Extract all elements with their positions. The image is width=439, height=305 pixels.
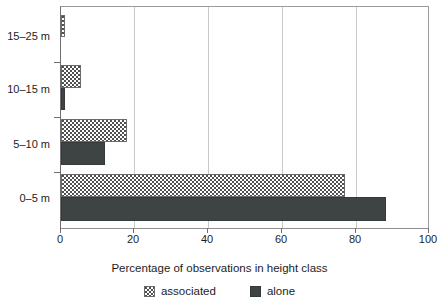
gridline-80 (356, 7, 357, 228)
y-tick-2 (54, 117, 60, 118)
bar-associated-5-10m (61, 119, 127, 142)
bar-associated-0-5m (61, 174, 345, 197)
bar-associated-10-15m (61, 65, 81, 88)
y-tick-label-15-25m: 15–25 m (0, 30, 50, 42)
legend-swatch-associated-icon (144, 286, 155, 297)
bar-chart-figure: 0 20 40 60 80 100 15–25 m 10–15 m 5–10 m… (0, 0, 439, 305)
x-tick-label-60: 60 (261, 233, 301, 246)
legend-item-associated: associated (144, 284, 216, 298)
bar-alone-0-5m (61, 197, 386, 221)
x-tick-label-40: 40 (187, 233, 227, 246)
y-tick-label-10-15m: 10–15 m (0, 83, 50, 95)
bar-alone-10-15m (61, 88, 65, 110)
legend-swatch-alone-icon (250, 286, 261, 297)
y-tick-1 (54, 62, 60, 63)
legend-label-alone: alone (267, 284, 295, 298)
y-tick-3 (54, 172, 60, 173)
y-tick-label-5-10m: 5–10 m (0, 138, 50, 150)
x-axis-line (60, 228, 429, 229)
legend-label-associated: associated (161, 284, 216, 298)
plot-area (60, 6, 429, 228)
x-tick-label-80: 80 (335, 233, 375, 246)
x-tick-label-0: 0 (40, 233, 80, 246)
x-tick-label-20: 20 (113, 233, 153, 246)
bar-associated-15-25m (61, 15, 65, 37)
chart-legend: associated alone (0, 284, 439, 298)
bar-alone-5-10m (61, 142, 105, 165)
legend-item-alone: alone (250, 284, 295, 298)
x-tick-label-100: 100 (408, 233, 439, 246)
y-tick-label-0-5m: 0–5 m (0, 192, 50, 204)
x-axis-title: Percentage of observations in height cla… (0, 261, 439, 275)
